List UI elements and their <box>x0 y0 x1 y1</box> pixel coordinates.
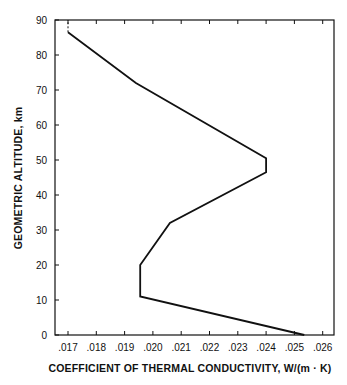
y-tick-label: 60 <box>36 120 48 131</box>
chart: .017.018.019.020.021.022.023.024.025.026… <box>0 0 347 385</box>
y-tick-label: 30 <box>36 225 48 236</box>
x-tick-label: .023 <box>228 342 248 353</box>
x-tick-label: .020 <box>143 342 163 353</box>
x-tick-label: .018 <box>87 342 107 353</box>
y-tick-label: 20 <box>36 260 48 271</box>
x-tick-label: .022 <box>200 342 220 353</box>
x-tick-label: .026 <box>313 342 333 353</box>
data-lines <box>68 20 304 335</box>
y-tick-label: 50 <box>36 155 48 166</box>
data-series <box>68 32 304 335</box>
y-tick-label: 40 <box>36 190 48 201</box>
x-axis-label: COEFFICIENT OF THERMAL CONDUCTIVITY, W/(… <box>48 362 331 374</box>
x-tick-label: .017 <box>58 342 78 353</box>
x-tick-label: .019 <box>115 342 135 353</box>
y-tick-label: 80 <box>36 50 48 61</box>
y-tick-label: 70 <box>36 85 48 96</box>
x-tick-label: .021 <box>171 342 191 353</box>
y-axis-label: GEOMETRIC ALTITUDE, km <box>12 107 24 250</box>
plot-frame <box>55 20 334 335</box>
x-tick-label: .025 <box>285 342 305 353</box>
x-tick-label: .024 <box>256 342 276 353</box>
y-tick-label: 90 <box>36 15 48 26</box>
y-tick-label: 0 <box>41 330 47 341</box>
y-tick-label: 10 <box>36 295 48 306</box>
x-axis-ticks: .017.018.019.020.021.022.023.024.025.026 <box>58 20 333 353</box>
